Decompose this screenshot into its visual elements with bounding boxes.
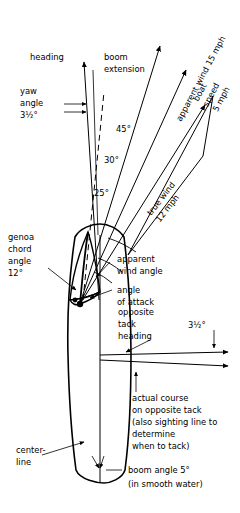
- label-heading: heading: [30, 52, 64, 62]
- wind-vector-triangle: [128, 96, 213, 255]
- label-yaw-angle-1: yaw: [20, 86, 37, 96]
- label-actual-course-1: actual course: [132, 393, 188, 403]
- label-genoa-chord-2: chord: [8, 244, 32, 254]
- label-opposite-tack-1: opposite: [118, 307, 154, 317]
- label-opposite-tack-angle: 3½°: [188, 320, 206, 330]
- label-angle-25: 25°: [94, 188, 109, 198]
- label-centerline-1: center-: [16, 445, 45, 455]
- label-yaw-angle-value: 3½°: [20, 110, 38, 120]
- label-actual-course-5: when to tack): [132, 441, 190, 451]
- label-genoa-chord-value: 12°: [8, 268, 23, 278]
- label-angle-of-attack-1: angle: [117, 285, 140, 295]
- label-genoa-chord-3: angle: [8, 256, 31, 266]
- label-boom-angle-1: boom angle 5°: [128, 465, 190, 475]
- label-actual-course-2: on opposite tack: [132, 405, 202, 415]
- label-apparent-wind-angle-2: wind angle: [117, 266, 163, 276]
- label-opposite-tack-3: heading: [118, 331, 152, 341]
- diagram-canvas: heading boom extension yaw angle 3½° 45°…: [0, 0, 240, 513]
- yaw-angle-marks: [64, 104, 86, 112]
- label-yaw-angle-2: angle: [20, 98, 43, 108]
- label-apparent-wind-angle-1: apparent: [117, 254, 156, 264]
- sailing-diagram: heading boom extension yaw angle 3½° 45°…: [0, 0, 240, 513]
- label-angle-30: 30°: [104, 155, 119, 165]
- label-angle-45: 45°: [116, 124, 131, 134]
- label-angle-of-attack-2: of attack: [117, 297, 154, 307]
- label-actual-course-3: (also sighting line to: [132, 417, 217, 427]
- label-boom-angle-2: (in smooth water): [128, 479, 203, 489]
- label-opposite-tack-2: tack: [118, 319, 136, 329]
- label-boom-extension-2: extension: [104, 64, 145, 74]
- label-centerline-2: line: [16, 457, 31, 467]
- label-actual-course-4: determine: [132, 429, 175, 439]
- label-genoa-chord-1: genoa: [8, 232, 34, 242]
- label-boom-extension-1: boom: [104, 52, 128, 62]
